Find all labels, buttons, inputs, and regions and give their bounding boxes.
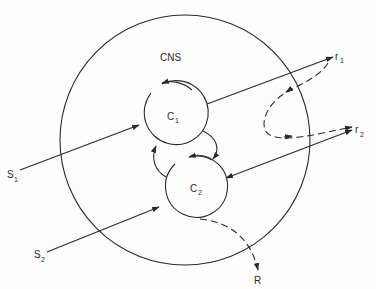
c1-circle bbox=[144, 81, 208, 145]
s2-input-arrow bbox=[47, 207, 159, 252]
s1-label: S bbox=[7, 169, 14, 180]
r1-r2-feedback-loop bbox=[264, 63, 352, 138]
s2-subscript: 2 bbox=[41, 256, 45, 263]
c2-self-loop-arrow bbox=[189, 156, 212, 160]
c2-subscript: 2 bbox=[198, 189, 202, 196]
r1-subscript: 1 bbox=[340, 57, 344, 64]
cns-boundary-circle bbox=[60, 15, 310, 265]
s1-input-arrow bbox=[20, 125, 139, 170]
c2-to-c1-arrow bbox=[154, 146, 166, 177]
r1-output-arrow bbox=[207, 57, 333, 104]
cns-diagram: CNS C 1 C 2 S 1 S 2 r 1 r 2 R bbox=[0, 0, 376, 289]
c1-to-c2-arrow bbox=[203, 131, 217, 159]
s1-subscript: 1 bbox=[14, 176, 18, 183]
s2-label: S bbox=[34, 249, 41, 260]
c2-label: C bbox=[190, 183, 197, 194]
cns-label: CNS bbox=[160, 52, 181, 63]
feedback-mid-arrow-lower bbox=[284, 136, 292, 137]
r-response-label: R bbox=[254, 275, 261, 286]
c1-subscript: 1 bbox=[175, 117, 179, 124]
r2-bidirectional-arrow bbox=[226, 130, 352, 178]
r2-subscript: 2 bbox=[360, 131, 364, 138]
c1-label: C bbox=[167, 111, 174, 122]
r1-label: r bbox=[335, 51, 339, 62]
r2-label: r bbox=[355, 124, 359, 135]
